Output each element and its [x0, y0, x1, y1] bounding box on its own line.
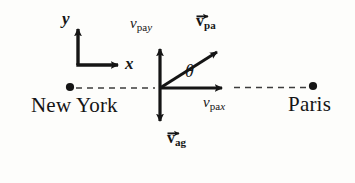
v-pax-label: vpax: [203, 95, 225, 112]
v-ag-symbol: v: [167, 130, 175, 146]
vector-diagram-figure: New York Paris y x vpay vpax vpa vag θ: [0, 0, 355, 183]
v-pay-label: vpay: [130, 16, 152, 33]
y-axis-label: y: [62, 10, 70, 27]
v-pa-symbol: v: [196, 13, 204, 29]
v-pa-subscript: pa: [204, 19, 216, 31]
v-ag-subscript: ag: [175, 136, 186, 148]
v-pax-symbol: v: [203, 94, 210, 110]
v-pa-label: vpa: [196, 13, 216, 31]
v-pay-subscript: pay: [137, 21, 153, 33]
new-york-dot: [66, 83, 74, 91]
new-york-label: New York: [31, 95, 118, 116]
v-pax-subscript: pax: [210, 100, 226, 112]
v-pay-symbol: v: [130, 15, 137, 31]
coordinate-axes-group: [76, 29, 118, 65]
v-ag-label: vag: [167, 130, 186, 148]
paris-dot: [309, 82, 317, 90]
x-axis-label: x: [125, 55, 134, 72]
theta-label: θ: [185, 62, 194, 80]
paris-label: Paris: [288, 94, 331, 115]
